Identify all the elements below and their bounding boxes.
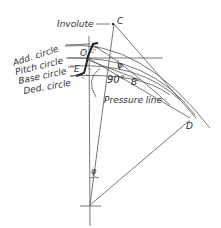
- psi-label: φ: [91, 167, 97, 176]
- phi-label: φ: [117, 60, 123, 70]
- add-circle-leader: [65, 44, 90, 45]
- involute-label: Involute: [57, 19, 94, 29]
- gear-diagram: Involute C Add. circle Pitch circle Base…: [0, 0, 221, 228]
- point-d-label: D: [186, 121, 193, 131]
- point-b-label: B: [131, 77, 137, 87]
- point-c-label: C: [117, 16, 124, 26]
- point-c-dot: [112, 23, 114, 25]
- right-angle-label: 90°: [107, 74, 125, 85]
- vertical-center-line: [89, 36, 90, 226]
- point-e-label: E: [74, 64, 80, 74]
- psi-angle-arc: [90, 177, 99, 178]
- pressure-line-pointer: [91, 68, 100, 97]
- radial-line-d: [90, 120, 190, 205]
- pressure-line-label: Pressure line: [104, 95, 163, 105]
- point-o-label: O: [80, 48, 87, 58]
